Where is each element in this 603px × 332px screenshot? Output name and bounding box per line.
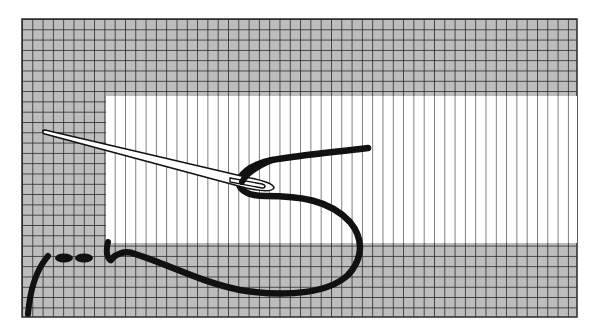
illustration-svg	[0, 0, 603, 332]
needlework-illustration: Needlework stitch diagram	[0, 0, 603, 332]
